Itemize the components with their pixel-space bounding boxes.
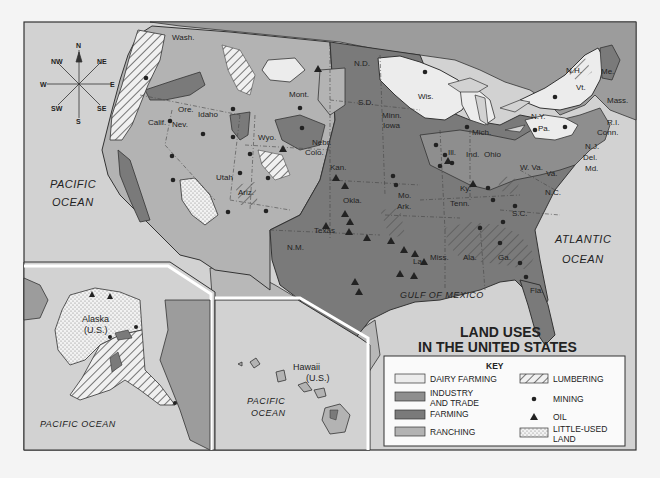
state-label-mich: Mich. <box>472 128 491 137</box>
legend-label-mining: MINING <box>553 394 584 404</box>
gulf-of-mexico-label: GULF OF MEXICO <box>400 290 484 300</box>
hawaii-label: Hawaii <box>293 362 320 372</box>
legend-mining-dot-icon <box>532 397 537 402</box>
state-label-ky: Ky. <box>460 184 471 193</box>
legend-heading: KEY <box>486 361 504 371</box>
state-label-calif: Calif. <box>148 118 166 127</box>
state-label-kan: Kan. <box>330 163 346 172</box>
compass-nw: NW <box>51 58 63 65</box>
pacific-ocean-label-2: OCEAN <box>52 196 94 208</box>
state-label-nev: Nev. <box>172 120 188 129</box>
map-title-line2: IN THE UNITED STATES <box>418 339 577 355</box>
state-label-colo: Colo. <box>305 148 324 157</box>
compass-ne: NE <box>97 58 107 65</box>
state-label-nj: N.J. <box>585 142 599 151</box>
state-label-utah: Utah <box>216 173 233 182</box>
legend-swatch-ranching <box>395 427 425 436</box>
state-label-mont: Mont. <box>289 90 309 99</box>
state-label-mo: Mo. <box>398 191 411 200</box>
state-label-idaho: Idaho <box>198 110 219 119</box>
legend-swatch-lumbering <box>520 374 548 383</box>
state-label-miss: Miss. <box>430 253 449 262</box>
state-label-mass: Mass. <box>607 96 628 105</box>
legend-label-farming: FARMING <box>430 409 469 419</box>
state-label-wash: Wash. <box>172 33 194 42</box>
legend-label-ranching: RANCHING <box>430 427 475 437</box>
compass-se: SE <box>97 105 107 112</box>
compass-s: S <box>76 118 81 125</box>
state-label-sc: S.C. <box>512 209 528 218</box>
state-label-pa: Pa. <box>538 124 550 133</box>
alaska-label-us: (U.S.) <box>84 325 108 335</box>
legend-swatch-industry <box>395 392 425 401</box>
state-label-ariz: Ariz. <box>238 188 254 197</box>
atlantic-ocean-label-2: OCEAN <box>562 253 604 265</box>
alaska-mining-marker-2 <box>134 325 138 329</box>
compass-n: N <box>76 42 81 49</box>
legend-swatch-little-used <box>520 428 548 437</box>
hawaii-label-us: (U.S.) <box>306 373 330 383</box>
atlantic-ocean-label: ATLANTIC <box>554 233 611 245</box>
state-label-me: Me. <box>601 67 614 76</box>
state-label-ill: Ill. <box>448 148 456 157</box>
alaska-pacific-ocean-label: PACIFIC OCEAN <box>40 419 116 429</box>
state-label-wis: Wis. <box>418 92 434 101</box>
compass-w: W <box>40 81 47 88</box>
state-label-vt: Vt. <box>576 83 586 92</box>
pacific-ocean-label: PACIFIC <box>50 178 96 190</box>
alaska-label: Alaska <box>82 314 109 324</box>
legend-label-little-used-2: LAND <box>553 434 576 444</box>
state-label-iowa: Iowa <box>383 121 400 130</box>
state-label-del: Del. <box>583 153 597 162</box>
state-label-va: Va. <box>546 169 557 178</box>
state-label-ga: Ga. <box>498 253 511 262</box>
land-use-map: N NE E SE S SW W NW PACIFIC OCEAN ATLANT… <box>0 0 660 478</box>
state-label-nh: N.H. <box>566 66 582 75</box>
state-label-ark: Ark. <box>397 202 411 211</box>
state-label-conn: Conn. <box>597 128 618 137</box>
state-label-nc: N.C. <box>545 188 561 197</box>
state-label-tenn: Tenn. <box>450 199 470 208</box>
hawaii-pacific-label: PACIFIC <box>247 396 285 406</box>
state-label-nebr: Nebr. <box>312 138 331 147</box>
state-label-md: Md. <box>585 164 598 173</box>
legend-swatch-farming <box>395 410 425 419</box>
legend-label-industry: INDUSTRY <box>430 388 474 398</box>
state-label-nm: N.M. <box>287 243 304 252</box>
state-label-ri: R.I. <box>607 118 619 127</box>
map-title-line1: LAND USES <box>460 324 541 340</box>
state-label-ny: N.Y. <box>531 112 546 121</box>
state-label-wva: W. Va. <box>520 163 543 172</box>
legend-label-industry-2: AND TRADE <box>430 398 479 408</box>
legend: KEY DAIRY FARMING INDUSTRY AND TRADE FAR… <box>384 356 625 446</box>
state-label-wyo: Wyo. <box>258 133 276 142</box>
state-label-okla: Okla. <box>343 196 362 205</box>
alaska-mining-marker <box>108 335 112 339</box>
legend-label-oil: OIL <box>553 412 567 422</box>
state-label-minn: Minn. <box>382 111 402 120</box>
alaska-mining-marker-3 <box>173 401 177 405</box>
hawaii-pacific-label-2: OCEAN <box>251 408 286 418</box>
state-label-sd: S.D. <box>358 98 374 107</box>
compass-e: E <box>110 81 115 88</box>
legend-label-little-used: LITTLE-USED <box>553 424 607 434</box>
state-label-ala: Ala. <box>463 253 477 262</box>
state-label-ore: Ore. <box>178 105 194 114</box>
legend-label-dairy: DAIRY FARMING <box>430 374 497 384</box>
legend-label-lumbering: LUMBERING <box>553 374 604 384</box>
state-label-ind: Ind. <box>466 150 479 159</box>
state-label-nd: N.D. <box>354 59 370 68</box>
state-label-ohio: Ohio <box>484 150 501 159</box>
compass-sw: SW <box>51 105 63 112</box>
legend-swatch-dairy <box>395 374 425 383</box>
state-label-fla: Fla. <box>530 286 543 295</box>
